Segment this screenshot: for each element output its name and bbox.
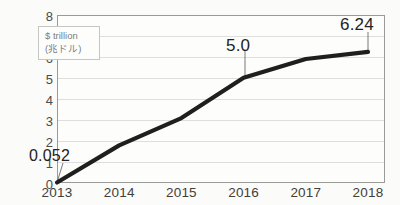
legend-box: $ trillion (兆ドル) (38, 26, 100, 60)
data-label-2016: 5.0 (226, 36, 250, 56)
y-tick-4: 4 (7, 94, 53, 107)
data-label-2018: 6.24 (340, 15, 374, 35)
gridline-5 (58, 78, 384, 79)
x-tick-2015: 2015 (166, 185, 197, 200)
cropped-title-strip (0, 0, 400, 7)
gridline-4 (58, 99, 384, 100)
legend-label-unit-en: $ trillion (45, 30, 94, 43)
gridline-3 (58, 120, 384, 121)
data-label-2013: 0.052 (29, 147, 70, 165)
plot-area (57, 15, 385, 183)
x-axis-tick-labels: 2013 2014 2015 2016 2017 2018 (57, 185, 385, 205)
legend-label-unit-ja: (兆ドル) (45, 43, 94, 56)
x-tick-2016: 2016 (228, 185, 259, 200)
chart-screenshot: 8 7 6 5 4 3 2 1 0 $ trillion (兆ドル) 0.052… (0, 0, 400, 205)
gridline-2 (58, 141, 384, 142)
x-tick-2017: 2017 (290, 185, 321, 200)
x-tick-2018: 2018 (353, 185, 384, 200)
x-tick-2013: 2013 (42, 185, 73, 200)
y-tick-8: 8 (7, 10, 53, 23)
y-tick-3: 3 (7, 115, 53, 128)
x-tick-2014: 2014 (104, 185, 135, 200)
y-tick-5: 5 (7, 73, 53, 86)
gridline-6 (58, 57, 384, 58)
gridline-1 (58, 162, 384, 163)
gridline-7 (58, 36, 384, 37)
